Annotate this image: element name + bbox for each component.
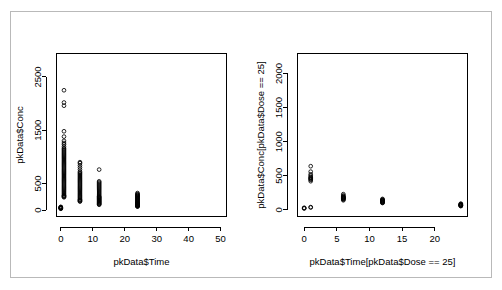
y-axis-right: 0500100015002000 — [274, 63, 288, 213]
y-axis-left: 050015002500 — [33, 66, 47, 212]
data-points-left — [59, 88, 139, 210]
data-point — [62, 88, 66, 92]
plot-svg-left: 01020304050050015002500pkData$TimepkData… — [10, 11, 251, 278]
x-axis-left: 01020304050 — [58, 227, 226, 244]
x-axis-title: pkData$Time — [113, 256, 169, 267]
y-tick-label: 2000 — [274, 63, 285, 84]
x-tick-label: 50 — [215, 233, 226, 244]
x-tick-label: 30 — [151, 233, 162, 244]
y-tick-label: 0 — [33, 207, 44, 212]
y-tick-label: 500 — [274, 168, 285, 184]
data-point — [97, 168, 101, 172]
y-tick-label: 1500 — [33, 120, 44, 141]
x-axis-title: pkData$Time[pkData$Dose == 25] — [310, 256, 456, 267]
y-axis-title: pkData$Conc[pkData$Dose == 25] — [255, 61, 266, 208]
x-tick-label: 10 — [87, 233, 98, 244]
plot-svg-right: 051015200500100015002000pkData$Time[pkDa… — [251, 11, 492, 278]
scatter-panel-right: 051015200500100015002000pkData$Time[pkDa… — [251, 11, 492, 278]
x-tick-label: 15 — [397, 233, 408, 244]
data-point — [62, 129, 66, 133]
r-graphics-device: 01020304050050015002500pkData$TimepkData… — [0, 0, 502, 290]
data-point — [62, 135, 66, 139]
data-points-right — [302, 164, 462, 210]
data-point — [309, 164, 313, 168]
y-tick-label: 0 — [274, 207, 285, 212]
y-tick-label: 500 — [33, 176, 44, 192]
y-tick-label: 1000 — [274, 131, 285, 152]
y-tick-label: 2500 — [33, 66, 44, 87]
x-tick-label: 10 — [364, 233, 375, 244]
x-tick-label: 40 — [183, 233, 194, 244]
x-tick-label: 0 — [58, 233, 63, 244]
scatter-panel-left: 01020304050050015002500pkData$TimepkData… — [10, 11, 251, 278]
y-axis-title: pkData$Conc — [14, 106, 25, 164]
x-tick-label: 20 — [119, 233, 130, 244]
x-axis-right: 05101520 — [302, 227, 440, 244]
x-tick-label: 0 — [302, 233, 307, 244]
y-tick-label: 1500 — [274, 97, 285, 118]
x-tick-label: 5 — [334, 233, 339, 244]
x-tick-label: 20 — [429, 233, 440, 244]
